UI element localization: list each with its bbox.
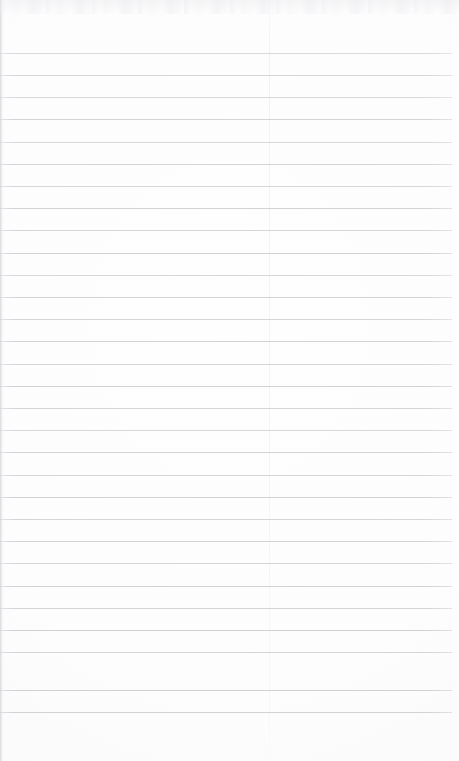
rule-line xyxy=(0,119,452,120)
rule-line xyxy=(0,97,452,98)
rule-line xyxy=(0,541,452,542)
rule-line xyxy=(0,475,452,476)
rule-line xyxy=(0,690,452,691)
rule-line xyxy=(0,630,452,631)
ruled-lines-layer xyxy=(0,0,459,761)
rule-line xyxy=(0,408,452,409)
rule-line xyxy=(0,341,452,342)
rule-line xyxy=(0,164,452,165)
rule-line xyxy=(0,452,452,453)
rule-line xyxy=(0,53,452,54)
rule-line xyxy=(0,386,452,387)
rule-line xyxy=(0,75,452,76)
rule-line xyxy=(0,712,452,713)
rule-line xyxy=(0,297,452,298)
rule-line xyxy=(0,430,452,431)
rule-line xyxy=(0,652,452,653)
rule-line xyxy=(0,608,452,609)
rule-line xyxy=(0,319,452,320)
rule-line xyxy=(0,586,452,587)
rule-line xyxy=(0,364,452,365)
rule-line xyxy=(0,253,452,254)
scanned-page xyxy=(0,0,459,761)
rule-line xyxy=(0,208,452,209)
rule-line xyxy=(0,142,452,143)
rule-line xyxy=(0,563,452,564)
rule-line xyxy=(0,275,452,276)
rule-line xyxy=(0,497,452,498)
rule-line xyxy=(0,186,452,187)
rule-line xyxy=(0,519,452,520)
rule-line xyxy=(0,230,452,231)
